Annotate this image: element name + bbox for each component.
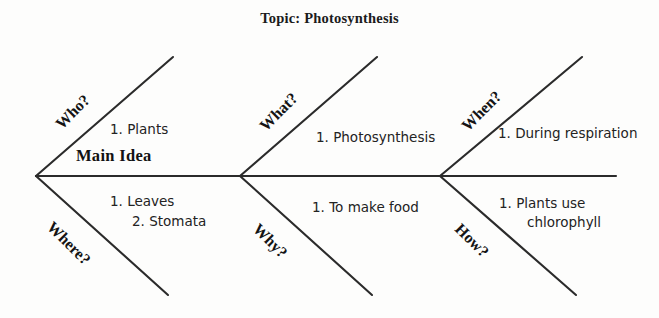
note-how-2: chlorophyll	[527, 213, 601, 231]
note-what-1: 1. Photosynthesis	[316, 128, 435, 146]
fishbone-diagram-page: Topic: Photosynthesis Who? Where? What? …	[0, 0, 659, 318]
note-why-1: 1. To make food	[312, 198, 419, 216]
note-how-1: 1. Plants use	[499, 194, 585, 212]
main-idea-label: Main Idea	[76, 146, 152, 166]
note-where-1: 1. Leaves	[110, 192, 174, 210]
note-who-1: 1. Plants	[110, 120, 168, 138]
note-when-1: 1. During respiration	[498, 124, 637, 142]
branch-line-when	[440, 57, 582, 176]
note-where-2: 2. Stomata	[132, 212, 206, 230]
